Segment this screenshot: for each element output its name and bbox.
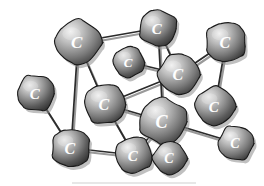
carbon-atom-bottom-small-label: C	[164, 151, 174, 166]
carbon-atom-left-edge-label: C	[30, 86, 41, 102]
carbon-atom-bottom-small: C	[152, 141, 191, 178]
carbon-atom-top-right-label: C	[219, 34, 230, 51]
carbon-atom-center-right-upper-label: C	[172, 66, 183, 83]
carbon-atom-center-left: C	[85, 85, 129, 127]
carbon-atom-top-center-label: C	[152, 21, 163, 37]
carbon-atom-top-center: C	[140, 10, 180, 50]
carbon-atom-bottom-right: C	[218, 126, 257, 163]
carbon-network-figure: CCCCCCCCCCCCC	[0, 0, 264, 186]
carbon-atom-left-edge: C	[18, 75, 58, 114]
carbon-atom-bottom-left: C	[52, 130, 92, 170]
carbon-atom-top-left-label: C	[71, 33, 83, 52]
carbon-atom-center-right-upper: C	[157, 54, 204, 98]
carbon-atom-bottom-right-label: C	[230, 136, 240, 151]
carbon-atom-top-left: C	[54, 18, 106, 68]
carbon-atom-center-left-label: C	[98, 96, 109, 113]
carbon-atom-right-middle: C	[195, 86, 240, 130]
carbon-atom-bottom-center-label: C	[128, 148, 139, 164]
carbon-atom-small-center-upper-label: C	[124, 55, 133, 70]
carbon-atom-small-center-upper: C	[113, 46, 148, 81]
carbon-network-canvas: CCCCCCCCCCCCC	[0, 0, 264, 186]
carbon-atom-right-middle-label: C	[209, 99, 220, 115]
carbon-atom-bottom-left-label: C	[64, 140, 75, 157]
carbon-atom-center-hub-label: C	[156, 112, 169, 132]
carbon-atom-top-right: C	[207, 23, 248, 65]
